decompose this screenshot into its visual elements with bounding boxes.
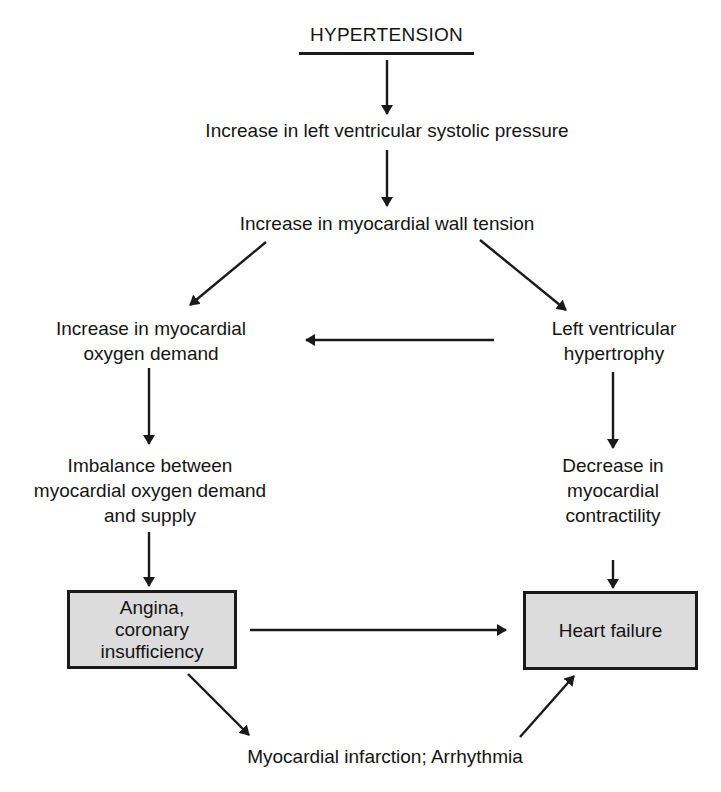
- node-imbalance-line1: Imbalance between: [10, 453, 290, 478]
- box-heart-failure-label: Heart failure: [559, 620, 663, 642]
- title-underline: [299, 52, 474, 55]
- node-contractility-line1: Decrease in: [530, 453, 696, 478]
- box-angina-line2: coronary: [100, 619, 203, 641]
- node-lvh-line2: hypertrophy: [520, 341, 708, 366]
- node-lvh-line1: Left ventricular: [520, 316, 708, 341]
- node-imbalance-line2: myocardial oxygen demand: [10, 478, 290, 503]
- node-contractility-line2: myocardial: [530, 478, 696, 503]
- node-lv-hypertrophy: Left ventricular hypertrophy: [520, 316, 708, 366]
- node-hypertension: HYPERTENSION: [299, 22, 474, 47]
- node-contractility: Decrease in myocardial contractility: [530, 453, 696, 528]
- node-wall-tension: Increase in myocardial wall tension: [190, 211, 584, 236]
- box-angina-line1: Angina,: [100, 597, 203, 619]
- arrow-tension-to-lvh: [480, 240, 566, 310]
- box-angina-line3: insufficiency: [100, 641, 203, 663]
- node-mi-arrhythmia: Myocardial infarction; Arrhythmia: [200, 744, 570, 769]
- node-imbalance-line3: and supply: [10, 503, 290, 528]
- node-oxygen-demand-line2: oxygen demand: [20, 341, 282, 366]
- node-oxygen-demand: Increase in myocardial oxygen demand: [20, 316, 282, 366]
- arrow-angina-to-mi: [188, 674, 249, 735]
- node-lv-systolic-pressure: Increase in left ventricular systolic pr…: [160, 118, 614, 143]
- node-imbalance: Imbalance between myocardial oxygen dema…: [10, 453, 290, 528]
- box-angina: Angina, coronary insufficiency: [67, 590, 237, 669]
- arrow-mi-to-heart-failure: [520, 676, 574, 737]
- node-oxygen-demand-line1: Increase in myocardial: [20, 316, 282, 341]
- node-contractility-line3: contractility: [530, 503, 696, 528]
- arrow-tension-to-oxygen-demand: [190, 242, 266, 305]
- box-heart-failure: Heart failure: [523, 591, 698, 670]
